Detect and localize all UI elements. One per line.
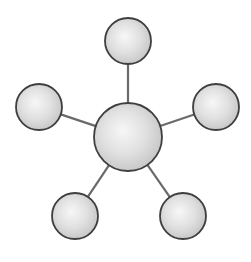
- satellite-node-bottom-left: [52, 193, 98, 239]
- edge-bottom-right: [147, 165, 169, 197]
- hub-spoke-diagram: [0, 0, 251, 262]
- satellite-node-bottom-right: [160, 193, 206, 239]
- nodes: [16, 18, 239, 239]
- edge-left: [61, 114, 96, 126]
- satellite-node-top: [105, 18, 151, 64]
- satellite-node-left: [16, 84, 62, 130]
- satellite-node-right: [193, 84, 239, 130]
- hub-node: [94, 103, 162, 171]
- edge-right: [160, 114, 194, 126]
- edge-bottom-left: [88, 165, 109, 197]
